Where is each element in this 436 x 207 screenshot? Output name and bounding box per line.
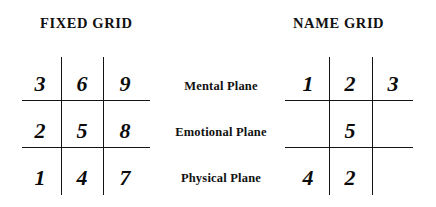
numerology-grid-diagram: FIXED GRID NAME GRID 3 6 9 2 5 8 1 4 7 M…: [0, 0, 436, 207]
fixed-grid-cell: 1: [21, 167, 59, 189]
fixed-grid-cell: 7: [106, 167, 144, 189]
name-grid-cell: 3: [374, 73, 412, 95]
fixed-grid-vertical-rule-1: [61, 57, 62, 195]
fixed-grid-horizontal-rule-2: [22, 147, 150, 148]
fixed-grid-cell: 6: [63, 73, 101, 95]
name-grid-cell: 4: [289, 167, 327, 189]
plane-label-mental: Mental Plane: [166, 79, 276, 94]
fixed-grid-cell: 9: [106, 73, 144, 95]
name-grid-cell: 2: [331, 167, 369, 189]
name-grid-cell: 5: [331, 120, 369, 142]
fixed-grid-cell: 3: [21, 73, 59, 95]
plane-label-physical: Physical Plane: [166, 171, 276, 186]
name-grid-vertical-rule-1: [329, 57, 330, 195]
name-grid-cell: 2: [331, 73, 369, 95]
fixed-grid-horizontal-rule-1: [22, 100, 150, 101]
fixed-grid-cell: 5: [63, 120, 101, 142]
fixed-grid-cell: 8: [106, 120, 144, 142]
name-grid: 1 2 3 5 4 2: [272, 0, 436, 207]
fixed-grid-cell: 4: [63, 167, 101, 189]
name-grid-horizontal-rule-2: [285, 147, 413, 148]
fixed-grid-cell: 2: [21, 120, 59, 142]
name-grid-vertical-rule-2: [372, 57, 373, 195]
plane-label-emotional: Emotional Plane: [166, 125, 276, 140]
fixed-grid-vertical-rule-2: [103, 57, 104, 195]
name-grid-cell: 1: [289, 73, 327, 95]
name-grid-horizontal-rule-1: [285, 100, 413, 101]
fixed-grid: 3 6 9 2 5 8 1 4 7 Mental Plane Emotional…: [0, 0, 165, 207]
